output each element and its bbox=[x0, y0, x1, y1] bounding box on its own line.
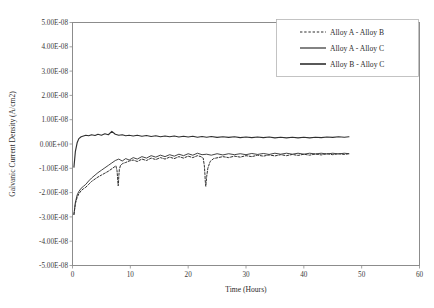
y-tick-label: -2.00E-08 bbox=[39, 189, 68, 197]
y-tick-label: 2.00E-08 bbox=[41, 92, 68, 100]
x-tick-label: 30 bbox=[242, 271, 250, 279]
legend-label-alloy-a-alloy-c: Alloy A - Alloy C bbox=[330, 44, 384, 53]
x-tick-label: 0 bbox=[71, 271, 75, 279]
y-tick-label: -1.00E-08 bbox=[39, 165, 68, 173]
y-axis-title: Galvanic Current Density (A/cm2) bbox=[8, 91, 17, 197]
y-tick-label: 0.00E+00 bbox=[40, 141, 69, 149]
x-tick-label: 20 bbox=[185, 271, 193, 279]
x-tick-label: 40 bbox=[300, 271, 308, 279]
chart-legend: Alloy A - Alloy B Alloy A - Alloy C Allo… bbox=[277, 20, 419, 77]
chart-canvas: 5.00E-084.00E-083.00E-082.00E-081.00E-08… bbox=[0, 0, 434, 308]
legend-label-alloy-a-alloy-b: Alloy A - Alloy B bbox=[330, 28, 384, 37]
y-tick-label: -4.00E-08 bbox=[39, 238, 68, 246]
y-tick-label: 4.00E-08 bbox=[41, 43, 68, 51]
y-tick-label: 5.00E-08 bbox=[41, 19, 68, 27]
x-tick-label: 60 bbox=[416, 271, 424, 279]
x-tick-label: 10 bbox=[127, 271, 135, 279]
x-axis-title: Time (Hours) bbox=[225, 285, 267, 294]
x-tick-label: 50 bbox=[358, 271, 366, 279]
legend-label-alloy-b-alloy-c: Alloy B - Alloy C bbox=[330, 60, 384, 69]
galvanic-current-density-chart: 5.00E-084.00E-083.00E-082.00E-081.00E-08… bbox=[0, 0, 434, 308]
y-tick-label: 3.00E-08 bbox=[41, 68, 68, 76]
y-tick-label: -3.00E-08 bbox=[39, 214, 68, 222]
y-tick-label: -5.00E-08 bbox=[39, 262, 68, 270]
y-tick-label: 1.00E-08 bbox=[41, 116, 68, 124]
